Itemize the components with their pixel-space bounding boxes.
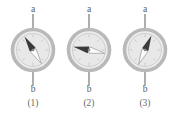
compass-panel-3: a b (3): [117, 0, 173, 117]
axis-label-b-2: b: [61, 84, 117, 94]
compass-pivot-2: [88, 49, 91, 52]
caption-3: (3): [117, 98, 173, 109]
compass-figure: a b (1): [0, 0, 176, 117]
caption-1: (1): [5, 98, 61, 109]
compass-pivot-3: [144, 49, 147, 52]
compass-panel-2: a b (2): [61, 0, 117, 117]
compass-panel-1: a b (1): [5, 0, 61, 117]
caption-2: (2): [61, 98, 117, 109]
axis-label-b-3: b: [117, 84, 173, 94]
compass-pivot-1: [32, 49, 35, 52]
axis-label-b-1: b: [5, 84, 61, 94]
